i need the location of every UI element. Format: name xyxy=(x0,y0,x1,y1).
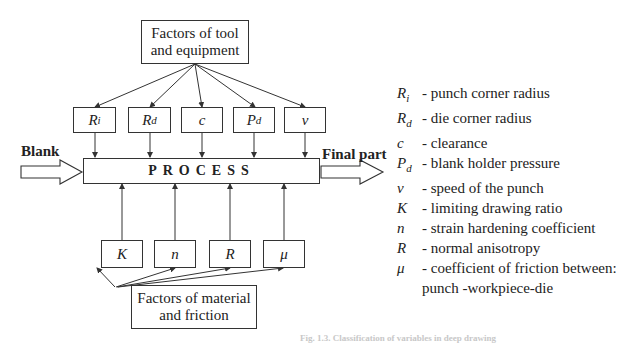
blank-label: Blank xyxy=(21,143,59,160)
figure-caption: Fig. 1.3. Classification of variables in… xyxy=(300,333,496,343)
legend-item: Ri- punch corner radius xyxy=(397,83,617,108)
legend-item: ν- speed of the punch xyxy=(397,178,617,198)
legend-item: c- clearance xyxy=(397,133,617,153)
var-box-anisotropy: R xyxy=(209,240,251,268)
var-box-strain-hardening: n xyxy=(154,240,196,268)
legend-item: K- limiting drawing ratio xyxy=(397,198,617,218)
var-box-punch-speed: ν xyxy=(284,107,326,133)
var-box-punch-radius: Ri xyxy=(73,107,116,133)
legend-item-continued: punch -workpiece-die xyxy=(397,278,617,298)
legend-item: n- strain hardening coefficient xyxy=(397,218,617,238)
variable-legend: Ri- punch corner radius Rd- die corner r… xyxy=(397,83,617,298)
tool-equipment-factors-box: Factors of tool and equipment xyxy=(141,20,249,64)
legend-item: Pd- blank holder pressure xyxy=(397,153,617,178)
var-box-clearance: c xyxy=(181,107,223,133)
var-box-blank-holder-pressure: Pd xyxy=(233,107,275,133)
var-box-friction: μ xyxy=(263,240,305,268)
blank-input-arrow xyxy=(21,160,82,184)
legend-item: Rd- die corner radius xyxy=(397,108,617,133)
final-part-output-arrow xyxy=(321,160,383,184)
var-box-die-radius: Rd xyxy=(128,107,171,133)
final-part-label: Final part xyxy=(322,146,387,163)
process-box: PROCESS xyxy=(83,158,320,184)
var-box-drawing-ratio: K xyxy=(101,240,143,268)
legend-item: R- normal anisotropy xyxy=(397,238,617,258)
material-friction-factors-box: Factors of material and friction xyxy=(131,285,257,329)
legend-item: μ- coefficient of friction between: xyxy=(397,258,617,278)
